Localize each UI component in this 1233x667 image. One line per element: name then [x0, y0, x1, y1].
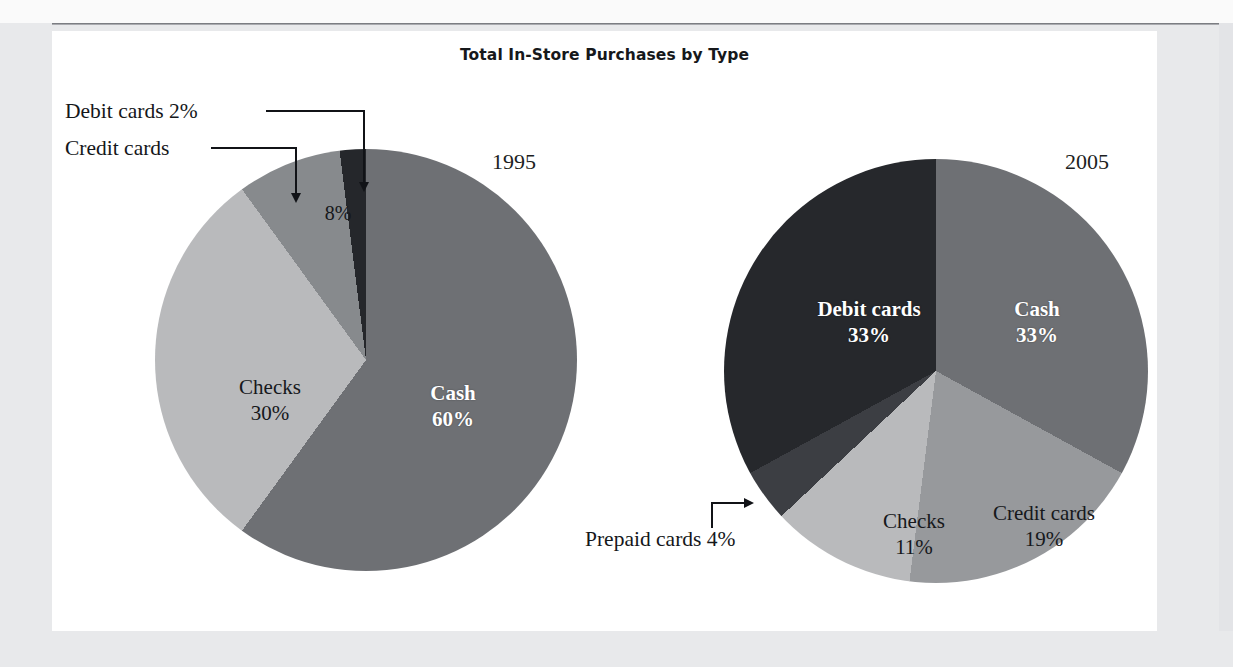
page-right-margin	[1219, 23, 1233, 667]
page-bottom-margin	[0, 631, 1233, 667]
pie-2005-label-debit: Debit cards 33%	[764, 297, 974, 348]
callout-prepaid-leader-horizontal	[711, 502, 746, 504]
callout-prepaid-cards-2005: Prepaid cards 4%	[585, 527, 735, 552]
callout-debit-leader-horizontal	[266, 110, 365, 112]
top-horizontal-rule	[0, 23, 1233, 25]
callout-debit-cards-1995: Debit cards 2%	[65, 99, 198, 124]
pie-1995-year-label: 1995	[492, 149, 536, 175]
pie-2005-label-checks-pct: 11%	[859, 535, 969, 561]
callout-credit-cards-1995: Credit cards	[65, 136, 169, 161]
pie-2005-label-cash-name: Cash	[972, 297, 1102, 323]
pie-2005-label-checks-name: Checks	[859, 509, 969, 535]
page-left-margin	[0, 23, 52, 667]
pie-2005-label-debit-pct: 33%	[764, 323, 974, 349]
pie-2005-label-checks: Checks 11%	[859, 509, 969, 560]
pie-chart-1995: Cash 60% Checks 30% 8%	[155, 149, 577, 571]
callout-credit-leader-horizontal	[211, 147, 297, 149]
pie-chart-2005: Debit cards 33% Cash 33% Credit cards 19…	[724, 159, 1148, 583]
figure-page: Total In-Store Purchases by Type Cash 60…	[0, 0, 1233, 667]
pie-2005-label-credit-pct: 19%	[954, 527, 1134, 553]
page-top-band	[0, 0, 1233, 23]
callout-debit-arrowhead	[359, 182, 369, 192]
pie-1995-label-cash-pct: 60%	[393, 407, 513, 433]
callout-prepaid-arrowhead	[744, 498, 754, 508]
pie-1995-label-checks: Checks 30%	[200, 375, 340, 426]
pie-2005-label-cash: Cash 33%	[972, 297, 1102, 348]
pie-2005-label-cash-pct: 33%	[972, 323, 1102, 349]
pie-1995-label-cash: Cash 60%	[393, 381, 513, 432]
callout-credit-leader-vertical	[295, 147, 297, 195]
pie-2005-label-credit: Credit cards 19%	[954, 501, 1134, 552]
figure-panel: Total In-Store Purchases by Type Cash 60…	[52, 31, 1157, 631]
pie-2005-year-label: 2005	[1065, 149, 1109, 175]
callout-credit-arrowhead	[291, 193, 301, 203]
pie-2005-label-debit-name: Debit cards	[764, 297, 974, 323]
pie-1995-label-checks-pct: 30%	[200, 401, 340, 427]
page-title: Total In-Store Purchases by Type	[52, 46, 1157, 64]
pie-2005-label-credit-name: Credit cards	[954, 501, 1134, 527]
callout-prepaid-leader-vertical	[711, 502, 713, 528]
pie-1995-label-checks-name: Checks	[200, 375, 340, 401]
pie-1995-label-credit-pct: 8%	[303, 201, 373, 225]
pie-1995-label-cash-name: Cash	[393, 381, 513, 407]
callout-debit-leader-vertical	[363, 110, 365, 184]
pie-1995-credit-pct-value: 8%	[303, 201, 373, 225]
